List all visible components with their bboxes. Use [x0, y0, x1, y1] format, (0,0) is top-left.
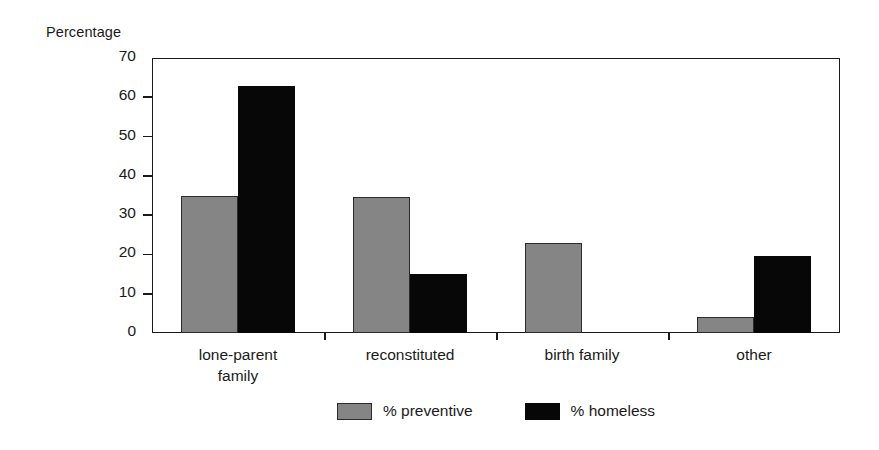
y-axis: 010203040506070 [0, 58, 152, 333]
legend-item: % homeless [525, 402, 655, 420]
y-axis-tick-label: 10 [119, 283, 136, 301]
x-axis-tick [496, 333, 498, 340]
y-axis-tick-mark [143, 136, 152, 138]
y-axis-tick-label: 70 [119, 47, 136, 65]
y-axis-tick-label: 30 [119, 204, 136, 222]
legend-label: % preventive [383, 402, 473, 420]
y-axis-tick-label: 50 [119, 126, 136, 144]
y-axis-tick-mark [143, 293, 152, 295]
y-axis-title: Percentage [46, 24, 121, 40]
bar-chart-figure: Percentage 010203040506070 lone-parent f… [0, 0, 879, 450]
x-axis-category-label: reconstituted [324, 344, 496, 365]
x-axis-category-label: birth family [496, 344, 668, 365]
y-axis-tick-label: 0 [127, 322, 136, 340]
bar-preventive [181, 196, 238, 334]
bar-homeless [238, 86, 295, 334]
y-axis-tick-mark [143, 254, 152, 256]
legend-swatch [525, 403, 560, 420]
bar-homeless [754, 256, 811, 333]
y-axis-tick-label: 40 [119, 165, 136, 183]
legend-swatch [337, 403, 372, 420]
bar-homeless [410, 274, 467, 333]
legend-label: % homeless [571, 402, 655, 420]
bars-layer [152, 58, 840, 333]
x-axis-category-label: other [668, 344, 840, 365]
x-axis-tick [668, 333, 670, 340]
y-axis-tick-mark [143, 175, 152, 177]
y-axis-tick-label: 20 [119, 243, 136, 261]
chart-legend: % preventive% homeless [152, 398, 840, 424]
x-axis-labels: lone-parent familyreconstitutedbirth fam… [152, 344, 840, 396]
y-axis-tick-label: 60 [119, 86, 136, 104]
x-axis-tick [324, 333, 326, 340]
legend-item: % preventive [337, 402, 473, 420]
y-axis-tick-mark [143, 96, 152, 98]
bar-preventive [353, 197, 410, 333]
bar-preventive [525, 243, 582, 333]
y-axis-tick-mark [143, 214, 152, 216]
x-axis-ticks [152, 333, 840, 341]
bar-preventive [697, 317, 754, 333]
x-axis-category-label: lone-parent family [152, 344, 324, 386]
